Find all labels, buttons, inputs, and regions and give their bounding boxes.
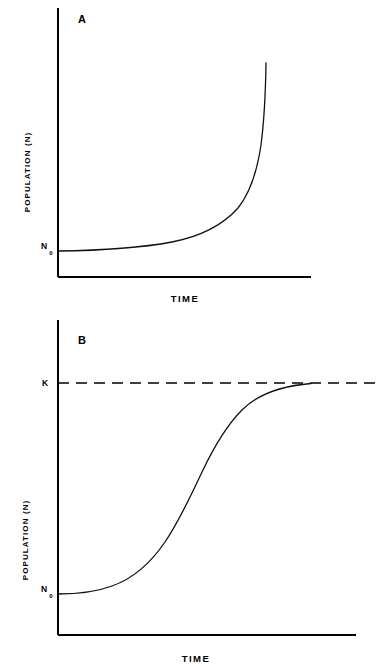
panel-a-n0-letter: N — [41, 241, 47, 251]
panel-a-letter: A — [78, 13, 86, 25]
figure-root: N 0 A TIME POPULATION (N) K — [0, 0, 377, 668]
panel-b-n0-label: N 0 — [41, 584, 53, 599]
panel-b-plot: K N 0 B TIME POPULATION (N) — [0, 320, 377, 668]
panel-a-n0-label: N 0 — [41, 241, 53, 256]
panel-a-exponential-growth: N 0 A TIME POPULATION (N) — [0, 0, 377, 320]
panel-b-n0-subscript: 0 — [49, 593, 53, 599]
panel-b-n0-letter: N — [41, 584, 47, 594]
panel-b-logistic-growth: K N 0 B TIME POPULATION (N) — [0, 320, 377, 668]
panel-b-y-axis-title: POPULATION (N) — [21, 500, 30, 581]
panel-b-logistic-curve — [58, 384, 311, 595]
panel-a-plot: N 0 A TIME POPULATION (N) — [0, 0, 377, 320]
panel-a-x-axis-title: TIME — [171, 293, 199, 304]
panel-a-exponential-curve — [58, 63, 266, 251]
panel-b-x-axis-title: TIME — [182, 653, 210, 664]
panel-b-k-label: K — [42, 378, 49, 388]
panel-a-n0-subscript: 0 — [49, 250, 53, 256]
panel-a-y-axis-title: POPULATION (N) — [23, 132, 32, 213]
panel-b-letter: B — [78, 334, 86, 346]
